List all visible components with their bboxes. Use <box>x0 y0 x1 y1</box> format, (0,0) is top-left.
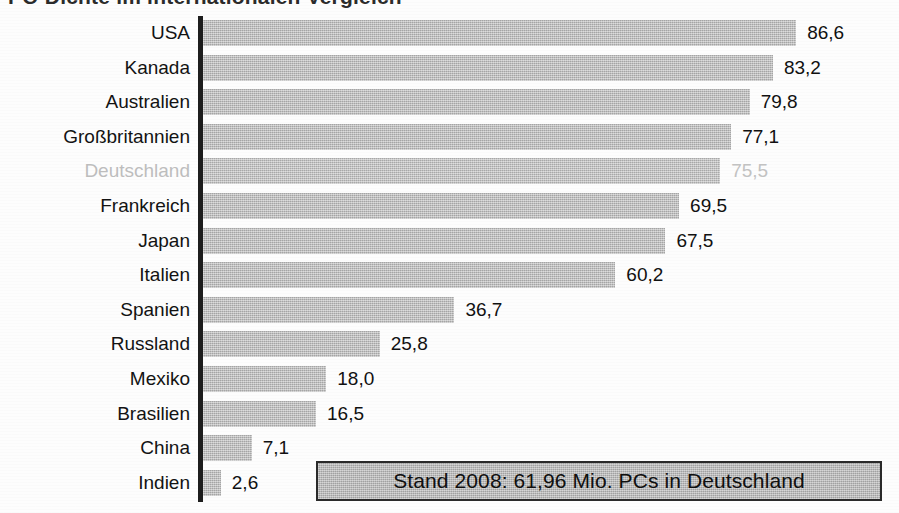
category-label: Deutschland <box>84 158 190 184</box>
bar <box>203 435 252 461</box>
bar-row: Deutschland75,5 <box>0 158 899 184</box>
bar <box>203 366 326 392</box>
category-label: Frankreich <box>100 193 190 219</box>
bar-value-label: 25,8 <box>391 331 428 357</box>
bar-value-label: 36,7 <box>465 297 502 323</box>
footnote-callout-box: Stand 2008: 61,96 Mio. PCs in Deutschlan… <box>316 461 882 501</box>
bar-row: Russland25,8 <box>0 331 899 357</box>
bar-row: Kanada83,2 <box>0 55 899 81</box>
bar <box>203 228 665 254</box>
bar-row: Frankreich69,5 <box>0 193 899 219</box>
bar-row: USA86,6 <box>0 20 899 46</box>
category-label: Russland <box>111 331 190 357</box>
category-label: Australien <box>106 89 191 115</box>
bar <box>203 470 221 496</box>
category-label: Indien <box>138 470 190 496</box>
bar-row: Brasilien16,5 <box>0 401 899 427</box>
bar-value-label: 60,2 <box>626 262 663 288</box>
bar <box>203 401 316 427</box>
bar-row: Spanien36,7 <box>0 297 899 323</box>
bar-value-label: 75,5 <box>731 158 768 184</box>
category-label: Kanada <box>124 55 190 81</box>
category-label: China <box>140 435 190 461</box>
category-label: Japan <box>138 228 190 254</box>
bar-row: Großbritannien77,1 <box>0 124 899 150</box>
bar-row: China7,1 <box>0 435 899 461</box>
bar <box>203 297 454 323</box>
category-label: Spanien <box>120 297 190 323</box>
footnote-label: Stand 2008: 61,96 Mio. PCs in Deutschlan… <box>393 469 805 493</box>
bar <box>203 158 720 184</box>
bar <box>203 89 750 115</box>
bar-value-label: 2,6 <box>232 470 258 496</box>
category-label: Mexiko <box>130 366 190 392</box>
bar-row: Japan67,5 <box>0 228 899 254</box>
bar-value-label: 18,0 <box>337 366 374 392</box>
bar-value-label: 67,5 <box>676 228 713 254</box>
bar-value-label: 16,5 <box>327 401 364 427</box>
bar <box>203 55 773 81</box>
category-label: USA <box>151 20 190 46</box>
bar-value-label: 79,8 <box>761 89 798 115</box>
bar <box>203 124 731 150</box>
bar-value-label: 7,1 <box>263 435 289 461</box>
bar-value-label: 69,5 <box>690 193 727 219</box>
category-label: Großbritannien <box>63 124 190 150</box>
bar <box>203 262 615 288</box>
bar-value-label: 77,1 <box>742 124 779 150</box>
bar-chart: PC-Dichte im internationalen Vergleich U… <box>0 0 899 513</box>
bar <box>203 193 679 219</box>
bar-value-label: 86,6 <box>807 20 844 46</box>
bar-row: Australien79,8 <box>0 89 899 115</box>
category-label: Brasilien <box>117 401 190 427</box>
bar-rows-container: USA86,6Kanada83,2Australien79,8Großbrita… <box>0 0 899 504</box>
bar <box>203 331 380 357</box>
bar-row: Italien60,2 <box>0 262 899 288</box>
bar-value-label: 83,2 <box>784 55 821 81</box>
bar-row: Mexiko18,0 <box>0 366 899 392</box>
category-label: Italien <box>139 262 190 288</box>
bar <box>203 20 796 46</box>
